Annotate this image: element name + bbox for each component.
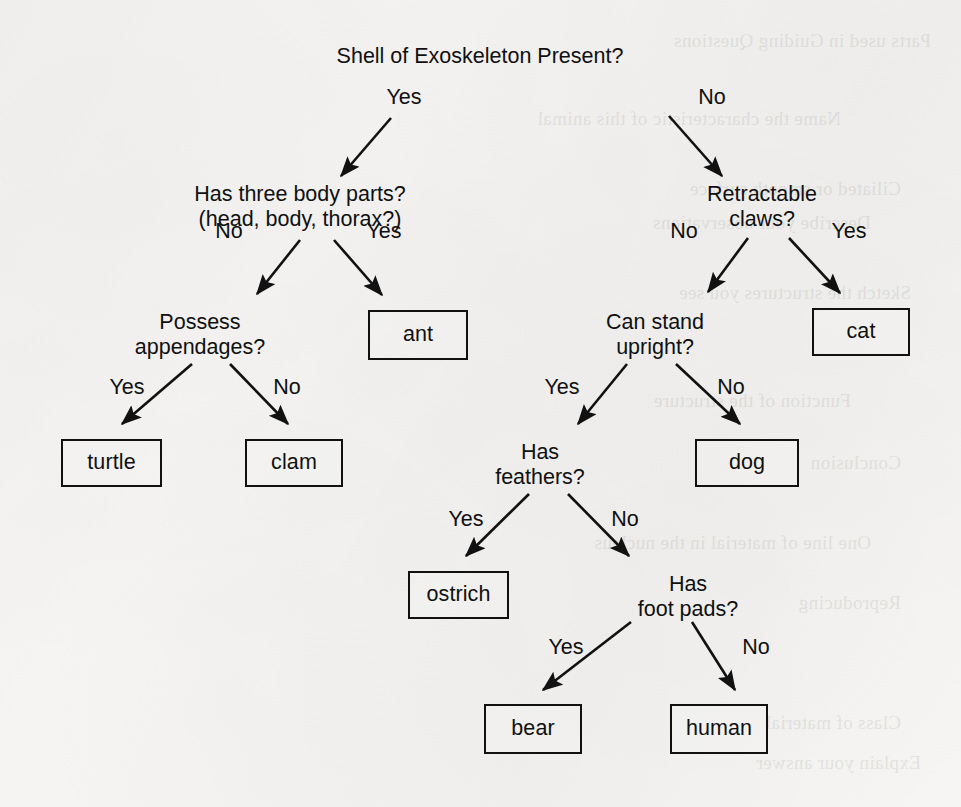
edge-label-yes: Yes — [544, 377, 579, 399]
q-bodyparts-line: (head, body, thorax?) — [194, 207, 406, 232]
edge-label-yes: Yes — [109, 377, 144, 399]
q-claws-line: Retractable — [707, 182, 817, 207]
scanned-page: Parts used in Guiding QuestionsName the … — [0, 0, 961, 807]
leaf-dog-label: dog — [729, 452, 765, 474]
leaf-bear: bear — [484, 704, 582, 754]
leaf-cat-label: cat — [847, 321, 876, 343]
edge-label-yes: Yes — [548, 637, 583, 659]
edge-label-no: No — [717, 377, 744, 399]
q-appendages: Possessappendages? — [135, 310, 265, 360]
edge-label-no: No — [273, 377, 300, 399]
q-appendages-line: appendages? — [135, 335, 265, 360]
leaf-human-label: human — [686, 718, 752, 740]
leaf-ant: ant — [368, 310, 468, 360]
q-appendages-line: Possess — [135, 310, 265, 335]
leaf-human: human — [670, 704, 768, 754]
q-root-line: Shell of Exoskeleton Present? — [337, 44, 624, 69]
edge-label-no: No — [698, 87, 725, 109]
leaf-turtle: turtle — [61, 439, 162, 487]
edge-arrow-layer — [0, 0, 961, 807]
edge-label-yes: Yes — [386, 87, 421, 109]
edge-arrow-yes — [334, 240, 382, 295]
edge-arrow-no — [708, 238, 748, 292]
leaf-clam-label: clam — [271, 452, 317, 474]
edge-arrow-no — [692, 622, 735, 690]
leaf-turtle-label: turtle — [87, 452, 135, 474]
q-bodyparts-line: Has three body parts? — [194, 182, 406, 207]
edge-arrow-yes — [341, 118, 391, 176]
edge-arrow-yes — [578, 364, 627, 424]
edge-arrow-yes — [789, 238, 840, 293]
leaf-bear-label: bear — [511, 718, 554, 740]
leaf-ostrich: ostrich — [408, 571, 509, 619]
q-claws: Retractableclaws? — [707, 182, 817, 232]
leaf-cat: cat — [812, 308, 910, 356]
decision-tree-diagram: YesNoNoYesNoYesYesNoYesNoYesNoYesNo Shel… — [0, 0, 961, 807]
leaf-ostrich-label: ostrich — [426, 584, 490, 606]
q-root: Shell of Exoskeleton Present? — [337, 44, 624, 69]
edge-arrow-no — [669, 116, 722, 176]
q-footpads: Hasfoot pads? — [638, 572, 738, 622]
q-feathers: Hasfeathers? — [495, 440, 585, 490]
q-footpads-line: Has — [638, 572, 738, 597]
q-feathers-line: feathers? — [495, 465, 585, 490]
edge-label-no: No — [670, 221, 697, 243]
edge-arrow-no — [257, 240, 300, 294]
leaf-dog: dog — [695, 439, 799, 487]
q-claws-line: claws? — [707, 207, 817, 232]
edge-label-yes: Yes — [831, 221, 866, 243]
q-feathers-line: Has — [495, 440, 585, 465]
leaf-ant-label: ant — [403, 324, 433, 346]
edge-label-no: No — [611, 509, 638, 531]
q-upright-line: Can stand — [606, 310, 704, 335]
leaf-clam: clam — [245, 439, 343, 487]
q-bodyparts: Has three body parts?(head, body, thorax… — [194, 182, 406, 232]
q-upright: Can standupright? — [606, 310, 704, 360]
edge-label-no: No — [742, 637, 769, 659]
q-footpads-line: foot pads? — [638, 597, 738, 622]
q-upright-line: upright? — [606, 335, 704, 360]
edge-label-yes: Yes — [448, 509, 483, 531]
